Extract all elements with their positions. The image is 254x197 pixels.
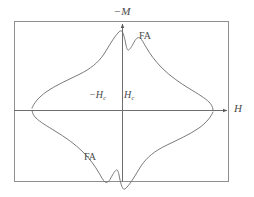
coercive-field-positive-label: Hc xyxy=(124,90,134,100)
hysteresis-figure: −M H −Hc Hc FA FA xyxy=(0,0,254,197)
y-axis-label: −M xyxy=(104,6,140,17)
fa-label-upper: FA xyxy=(139,31,151,41)
coercive-field-positive-symbol: H xyxy=(124,89,131,100)
coercive-field-positive-subscript: c xyxy=(132,94,135,101)
fa-label-lower: FA xyxy=(84,152,96,162)
x-axis-label: H xyxy=(234,103,242,114)
coercive-field-negative-symbol: −H xyxy=(89,89,103,100)
coercive-field-negative-subscript: c xyxy=(103,94,106,101)
coercive-field-negative-label: −Hc xyxy=(89,90,106,100)
plot-frame xyxy=(15,22,229,182)
